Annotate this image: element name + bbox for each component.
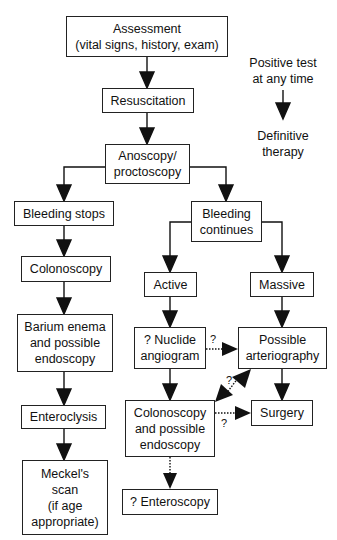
edge-label-colonoscopy-arteriography: ?	[226, 374, 232, 386]
node-enteroclysis: Enteroclysis	[21, 405, 106, 429]
node-active: Active	[144, 272, 197, 297]
node-meckels-scan: Meckel's scan (if age appropriate)	[22, 460, 108, 535]
node-massive: Massive	[250, 272, 314, 297]
node-resuscitation: Resuscitation	[102, 88, 194, 113]
node-surgery: Surgery	[251, 400, 313, 426]
node-bleeding-stops: Bleeding stops	[14, 201, 114, 226]
node-colonoscopy-left: Colonoscopy	[21, 256, 111, 282]
node-nuclide-angiogram: ? Nuclide angiogram	[134, 327, 206, 369]
node-possible-arteriography: Possible arteriography	[238, 327, 327, 369]
edge-label-nuclide-arteriography: ?	[210, 333, 216, 345]
node-bleeding-continues: Bleeding continues	[191, 201, 262, 242]
legend-definitive-therapy: Definitive therapy	[240, 128, 326, 160]
node-barium-enema: Barium enema and possible endoscopy	[17, 314, 113, 372]
node-assessment: Assessment (vital signs, history, exam)	[66, 16, 228, 57]
node-colonoscopy-endoscopy: Colonoscopy and possible endoscopy	[125, 400, 215, 457]
legend-positive-test: Positive test at any time	[240, 55, 326, 87]
node-anoscopy: Anoscopy/ proctoscopy	[105, 144, 190, 184]
edge-label-colonoscopy-surgery: ?	[221, 417, 227, 429]
node-enteroscopy: ? Enteroscopy	[122, 489, 218, 515]
